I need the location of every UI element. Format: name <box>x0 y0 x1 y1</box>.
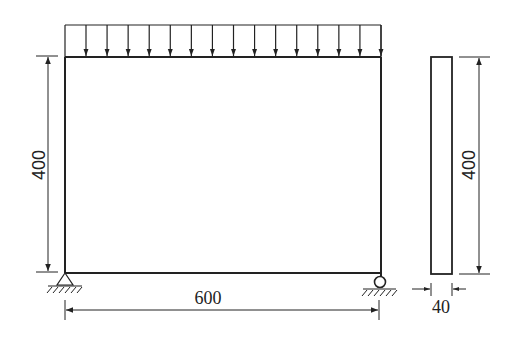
roller-support-icon <box>362 277 397 297</box>
section-height-label: 400 <box>459 150 479 180</box>
column-section <box>431 57 452 274</box>
section-width-dimension <box>412 283 466 296</box>
width-label: 600 <box>195 288 222 308</box>
height-label: 400 <box>29 150 49 180</box>
distributed-load <box>65 25 381 57</box>
frame <box>65 57 381 277</box>
section-width-label: 40 <box>432 297 450 317</box>
frame-diagram: 400 600 400 40 <box>0 0 515 338</box>
width-dimension <box>65 300 379 320</box>
pin-support-icon <box>47 273 82 293</box>
